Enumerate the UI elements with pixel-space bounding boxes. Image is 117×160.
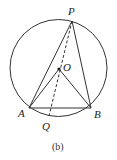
figure-caption: (b) (52, 141, 64, 153)
center-point-O (57, 67, 60, 70)
label-P: P (67, 5, 75, 17)
label-A: A (17, 107, 25, 119)
label-Q: Q (42, 120, 50, 132)
segment-OB (59, 69, 91, 108)
circle-geometry-diagram: P O A B Q (b) (0, 0, 117, 160)
segment-OA (29, 69, 59, 108)
segment-PB (72, 21, 91, 108)
label-O: O (63, 61, 71, 73)
label-B: B (94, 108, 101, 120)
